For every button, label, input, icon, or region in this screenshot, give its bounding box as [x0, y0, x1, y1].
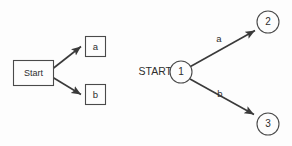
- right-diagram-group: START 1 2 3 a b: [139, 11, 279, 135]
- state-node-3-label: 3: [265, 118, 271, 129]
- start-box-label: Start: [24, 68, 44, 78]
- state-node-1-label: 1: [178, 66, 184, 77]
- box-a-label: a: [93, 41, 99, 52]
- transition-1-to-2: [191, 31, 256, 67]
- start-text-label: START: [139, 65, 173, 77]
- arrow-start-to-a: [53, 47, 81, 69]
- box-b-label: b: [93, 89, 98, 100]
- left-diagram-group: Start a b: [14, 37, 106, 105]
- diagram-svg: Start a b START 1 2 3 a: [0, 0, 292, 146]
- transition-label-a: a: [216, 33, 222, 44]
- arrow-start-to-b: [53, 78, 81, 95]
- diagram-canvas: Start a b START 1 2 3 a: [0, 0, 292, 146]
- state-node-2-label: 2: [265, 16, 271, 27]
- transition-label-b: b: [217, 88, 222, 99]
